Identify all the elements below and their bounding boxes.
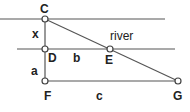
river-diagram: C D E F G x a b c river (0, 0, 190, 112)
label-b: b (73, 51, 80, 65)
label-e: E (105, 53, 113, 67)
label-g: G (173, 89, 182, 103)
label-c-segment: c (96, 89, 103, 103)
label-a: a (31, 64, 38, 78)
label-c: C (40, 2, 49, 16)
point-g (175, 78, 181, 84)
river-label: river (110, 29, 133, 43)
label-d: D (48, 51, 57, 65)
diagram-canvas: C D E F G x a b c river (0, 0, 190, 112)
label-f: F (44, 89, 51, 103)
point-e (107, 46, 113, 52)
point-c (42, 16, 48, 22)
point-f (42, 78, 48, 84)
label-x: x (32, 27, 39, 41)
